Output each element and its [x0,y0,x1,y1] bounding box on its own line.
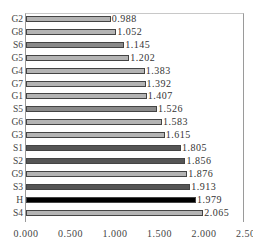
value-label: 1.145 [125,39,150,51]
category-label: G1 [0,90,23,102]
value-label: 1.583 [163,116,188,128]
bar [26,184,190,190]
category-label: S5 [0,103,23,115]
bar [26,55,129,61]
category-label: G8 [0,26,23,38]
bar [26,132,165,138]
bar [26,145,181,151]
value-label: 1.392 [147,78,172,90]
category-label: G4 [0,65,23,77]
value-label: 2.065 [204,207,229,219]
bar [26,158,185,164]
category-label: S6 [0,39,23,51]
x-tick-label: 2.000 [192,228,217,239]
x-tick-label: 2.500 [236,228,253,239]
category-label: H [0,194,23,206]
x-tick-label: 1.000 [103,228,128,239]
value-label: 1.856 [186,155,211,167]
bar [26,210,203,216]
x-tick-label: 0.000 [14,228,39,239]
bar [26,68,145,74]
category-label: S4 [0,207,23,219]
bar [26,197,196,203]
category-label: G9 [0,168,23,180]
value-label: 1.407 [148,90,173,102]
category-label: G2 [0,13,23,25]
bar [26,171,187,177]
category-label: S3 [0,181,23,193]
value-label: 1.526 [158,103,183,115]
bar [26,119,162,125]
value-label: 1.876 [188,168,213,180]
category-label: G3 [0,129,23,141]
value-label: 1.979 [197,194,222,206]
value-label: 1.805 [182,142,207,154]
value-label: 1.202 [130,52,155,64]
x-tick-label: 1.500 [147,228,172,239]
bar [26,29,116,35]
value-label: 1.052 [117,26,142,38]
category-label: S2 [0,155,23,167]
bar [26,16,111,22]
category-label: G7 [0,78,23,90]
category-label: G5 [0,52,23,64]
category-label: S1 [0,142,23,154]
bar [26,106,157,112]
category-label: G6 [0,116,23,128]
value-label: 0.988 [112,13,137,25]
bar [26,93,147,99]
value-label: 1.615 [166,129,191,141]
bar [26,42,124,48]
value-label: 1.913 [191,181,216,193]
bar [26,81,146,87]
x-tick-label: 0.500 [58,228,83,239]
value-label: 1.383 [146,65,171,77]
